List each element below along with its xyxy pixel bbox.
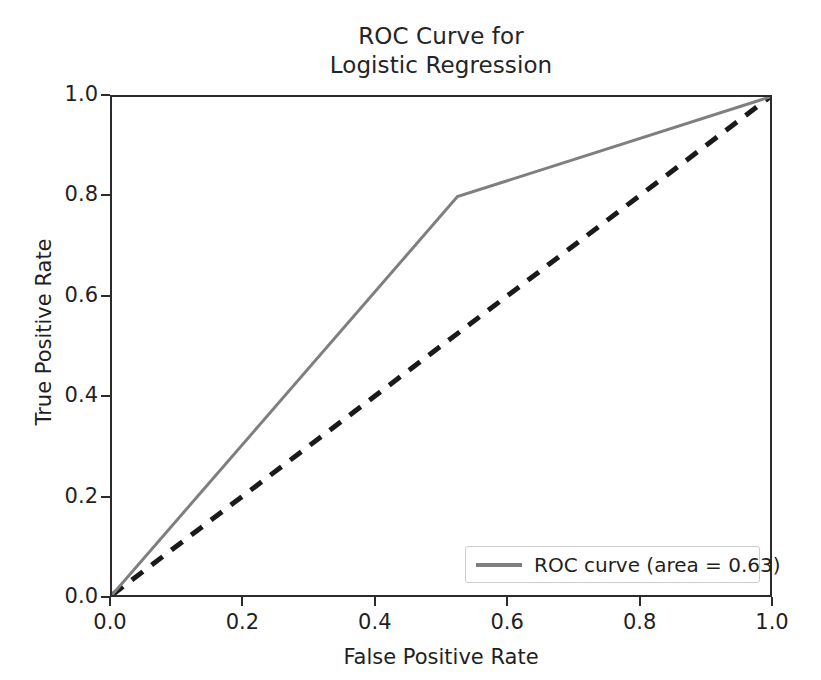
x-axis-tick-labels: 0.00.20.40.60.81.0 xyxy=(0,612,821,640)
y-tick-mark xyxy=(101,94,110,96)
x-tick-label: 1.0 xyxy=(732,612,812,633)
x-tick-mark xyxy=(109,597,111,606)
y-tick-mark xyxy=(101,194,110,196)
x-tick-mark xyxy=(639,597,641,606)
y-tick-label: 1.0 xyxy=(40,84,98,105)
y-axis-title: True Positive Rate xyxy=(32,202,56,462)
roc-curve-figure: ROC Curve for Logistic Regression 0.00.2… xyxy=(0,0,821,680)
x-tick-label: 0.8 xyxy=(600,612,680,633)
legend: ROC curve (area = 0.63) xyxy=(465,546,760,583)
x-tick-mark xyxy=(506,597,508,606)
y-tick-mark xyxy=(101,295,110,297)
y-tick-mark xyxy=(101,496,110,498)
legend-swatch-roc-curve xyxy=(476,563,522,567)
x-axis-title: False Positive Rate xyxy=(110,645,772,669)
y-tick-label: 0.0 xyxy=(40,586,98,607)
x-tick-label: 0.0 xyxy=(70,612,150,633)
x-tick-label: 0.6 xyxy=(467,612,547,633)
legend-label-roc-curve: ROC curve (area = 0.63) xyxy=(534,555,781,575)
y-tick-label: 0.2 xyxy=(40,486,98,507)
plot-svg xyxy=(112,97,770,595)
plot-area xyxy=(110,95,772,597)
y-tick-mark xyxy=(101,395,110,397)
chance-diagonal-line xyxy=(112,97,770,595)
x-tick-label: 0.2 xyxy=(202,612,282,633)
x-tick-mark xyxy=(771,597,773,606)
x-tick-mark xyxy=(241,597,243,606)
x-tick-label: 0.4 xyxy=(335,612,415,633)
chart-title: ROC Curve for Logistic Regression xyxy=(110,22,772,80)
x-tick-mark xyxy=(374,597,376,606)
